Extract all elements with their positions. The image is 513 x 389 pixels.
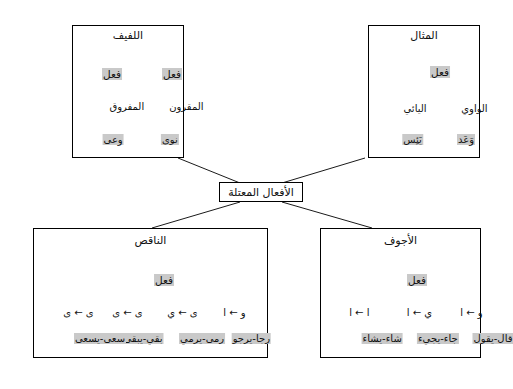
example-al-wawi: وَعَد [457,134,475,145]
category-title-an-naqis: الناقص [33,234,268,247]
example-ajwaf-3: شاء-يشاء [362,333,403,344]
label-al-maqrun: المقرون [169,101,203,112]
example-ajwaf-1: قال-يقول [472,333,513,344]
label-al-wawi: الواوي [461,103,487,114]
example-ajwaf-2: جاء-يجيء [417,333,459,344]
rule-naqis-2: ى ← ي [167,307,197,318]
rule-ajwaf-1: و ← ا [460,307,482,318]
rule-naqis-3: ى ← ى [112,307,142,318]
node-fil-lafif-left: فعل [102,68,122,80]
example-naqis-4: سعى-يسعى [74,333,126,344]
example-naqis-2: رمى-يرمي [179,333,225,344]
example-naqis-1: رجا-يرجو [232,333,271,344]
node-fil-lafif-right: فعل [162,68,182,80]
node-fil-mithal: فعل [430,66,450,78]
example-al-mafruq: وعى [103,134,124,145]
node-fil-ajwaf: فعل [407,274,427,286]
example-al-yai: يَئِس [402,134,423,145]
category-title-al-lafif: اللفيف [72,29,184,42]
example-al-maqrun: نوى [161,134,179,145]
rule-ajwaf-2: ي ← ا [407,307,432,318]
category-title-al-ajwaf: الأجوف [320,234,481,247]
root-node-box: الأفعال المعتلة [219,182,303,202]
node-fil-naqis: فعل [154,274,174,286]
root-node-label: الأفعال المعتلة [228,186,294,199]
rule-ajwaf-3: ا ← ا [349,307,369,318]
category-title-al-mithal: المثال [368,29,480,42]
example-naqis-3: بقي-يبقى [122,333,163,344]
label-al-yai: اليائي [404,103,427,114]
rule-naqis-1: و ← ا [223,307,245,318]
label-al-mafruq: المفروق [109,101,144,112]
rule-naqis-4: ى ← ى [63,307,93,318]
